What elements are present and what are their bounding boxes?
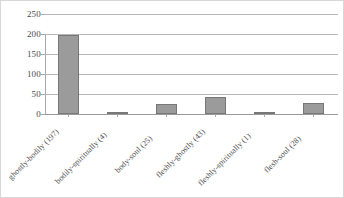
gridline-50 — [45, 94, 338, 95]
bar-body-soul — [156, 104, 177, 114]
y-axis-tick-label-150: 150 — [5, 50, 41, 59]
y-axis-tick-label-200: 200 — [5, 30, 41, 39]
x-axis-tick-label-fleshly-ghostly: fleshly-ghostly (43) — [155, 128, 207, 180]
x-axis-tick-label-fleshly-spiritually: fleshly-spiritually (1) — [197, 132, 253, 188]
y-axis-tick-label-250: 250 — [5, 10, 41, 19]
bar-flesh-soul — [303, 103, 324, 114]
gridline-150 — [45, 54, 338, 55]
bar-fleshly-ghostly — [205, 97, 226, 114]
x-axis-tick-label-flesh-soul: flesh-soul (28) — [263, 135, 303, 175]
bar-ghostly-bodily — [58, 35, 79, 114]
x-axis-tick-label-ghostly-bodily: ghostly-bodily (197) — [7, 128, 61, 182]
gridline-200 — [45, 34, 338, 35]
x-axis-tick-label-body-soul: body-soul (25) — [114, 135, 154, 175]
y-axis-tick-label-50: 50 — [5, 90, 41, 99]
gridline-100 — [45, 74, 338, 75]
y-axis-tick-label-100: 100 — [5, 70, 41, 79]
bar-chart: 250 200 150 100 50 0 — [0, 0, 344, 198]
gridline-250 — [45, 14, 338, 15]
x-axis-labels: ghostly-bodily (197) bodily-spiritually … — [1, 114, 344, 198]
x-axis-tick-label-bodily-spiritually: bodily-spiritually (4) — [54, 131, 109, 186]
plot-area — [45, 14, 338, 114]
